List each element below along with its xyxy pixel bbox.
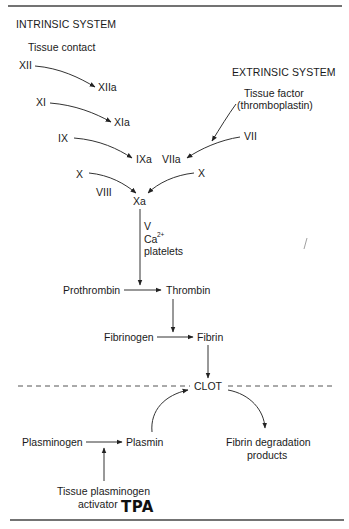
factor-vii: VII (244, 130, 257, 142)
cofactor-ca: Ca (144, 233, 158, 245)
arrow-ix-to-ixa (74, 138, 132, 158)
arrow-x-to-xa-extrinsic (148, 173, 194, 193)
prothrombin-label: Prothrombin (63, 284, 120, 296)
fibrin-label: Fibrin (197, 331, 223, 343)
fibrin-degradation-products-label: products (247, 449, 287, 461)
factor-xii: XII (19, 59, 32, 71)
fibrin-degradation-label: Fibrin degradation (226, 436, 311, 448)
factor-xia: XIa (114, 116, 130, 128)
cofactor-platelets: platelets (144, 245, 183, 257)
arrow-xii-to-xiia (35, 66, 95, 87)
arrow-xi-to-xia (50, 103, 111, 122)
factor-xi: XI (36, 96, 46, 108)
thromboplastin-label: (thromboplastin) (237, 99, 313, 111)
stray-pencil-mark (304, 238, 307, 249)
extrinsic-system-heading: EXTRINSIC SYSTEM (232, 66, 336, 78)
tissue-factor-label: Tissue factor (244, 87, 304, 99)
tissue-plasminogen-label: Tissue plasminogen (57, 485, 150, 497)
factor-ix: IX (58, 132, 68, 144)
factor-ixa: IXa (136, 153, 152, 165)
arrow-tissue-factor-to-viia (212, 104, 236, 141)
fibrinogen-label: Fibrinogen (104, 331, 154, 343)
factor-xiia: XIIa (98, 81, 117, 93)
arrow-vii-to-viia (187, 137, 240, 158)
factor-x-intrinsic: X (76, 168, 83, 180)
thrombin-label: Thrombin (166, 284, 211, 296)
factor-xa: Xa (133, 195, 146, 207)
arrow-plasmin-to-clot (152, 390, 188, 432)
tissue-contact-label: Tissue contact (28, 41, 95, 53)
cofactor-ca-charge: 2+ (157, 231, 165, 238)
clot-label: CLOT (194, 380, 223, 392)
factor-x-extrinsic: X (198, 167, 205, 179)
factor-viia: VIIa (162, 153, 181, 165)
arrow-clot-to-degradation (228, 390, 265, 428)
cofactor-v: V (144, 220, 151, 232)
factor-viii: VIII (96, 186, 112, 198)
plasmin-label: Plasmin (126, 436, 164, 448)
intrinsic-system-heading: INTRINSIC SYSTEM (16, 18, 116, 30)
plasminogen-label: Plasminogen (22, 436, 83, 448)
coagulation-cascade-diagram: INTRINSIC SYSTEM EXTRINSIC SYSTEM Tissue… (0, 0, 349, 529)
handwritten-tpa-note: TPA (121, 498, 154, 516)
activator-label: activator (78, 498, 118, 510)
